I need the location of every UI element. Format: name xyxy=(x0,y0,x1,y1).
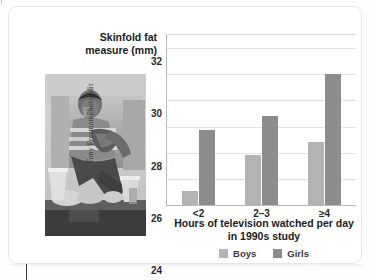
plot-area: 20222426283032 <22–3≥4 xyxy=(166,34,356,206)
y-tick-label: 28 xyxy=(151,160,162,171)
legend-label: Boys xyxy=(233,248,256,259)
bar-boys-0 xyxy=(182,191,198,205)
legend-item-boys[interactable]: Boys xyxy=(219,248,256,259)
photo-credit: Tony Freeman/PhotoEdit xyxy=(86,59,95,189)
legend-item-girls[interactable]: Girls xyxy=(273,248,309,259)
y-axis-title: Skinfold fat measure (mm) xyxy=(61,31,157,57)
y-tick-label: 32 xyxy=(151,56,162,67)
page-edge-mark xyxy=(1,0,2,4)
photo-image xyxy=(45,74,146,236)
x-axis-title: Hours of television watched per day in 1… xyxy=(157,217,371,243)
legend-swatch-icon xyxy=(219,249,228,258)
bar-boys-1 xyxy=(245,155,261,205)
figure-root: Tony Freeman/PhotoEdit Skinfold fat meas… xyxy=(0,0,372,280)
bar-boys-2 xyxy=(308,142,324,205)
legend-swatch-icon xyxy=(273,249,282,258)
chart-legend: BoysGirls xyxy=(157,248,371,259)
photo-block: Tony Freeman/PhotoEdit xyxy=(45,74,146,236)
bar-girls-0 xyxy=(199,130,215,205)
photo-illustration xyxy=(45,74,146,236)
gridline: 20 xyxy=(167,205,356,206)
bars-layer xyxy=(167,35,356,205)
x-axis-title-line1: Hours of television watched per day xyxy=(157,217,371,230)
bar-girls-2 xyxy=(325,74,341,205)
x-axis-title-line2: in 1990s study xyxy=(157,230,371,243)
bar-girls-1 xyxy=(262,116,278,205)
y-tick-label: 30 xyxy=(151,108,162,119)
figure-card: Tony Freeman/PhotoEdit Skinfold fat meas… xyxy=(8,6,362,264)
card-shadow xyxy=(10,264,362,267)
page-gutter-mark xyxy=(26,264,27,280)
legend-label: Girls xyxy=(287,248,309,259)
